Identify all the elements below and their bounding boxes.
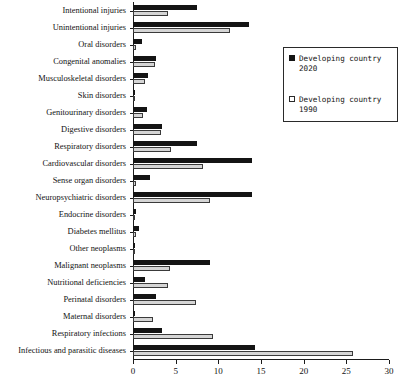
bar-2020 xyxy=(133,141,197,146)
bar-1990 xyxy=(133,215,135,220)
bar-2020 xyxy=(133,39,142,44)
bar-1990 xyxy=(133,249,135,254)
bar-2020 xyxy=(133,90,135,95)
x-axis-tick-label: 15 xyxy=(257,366,266,376)
bar-1990 xyxy=(133,45,136,50)
category-label: Intentional injuries xyxy=(0,2,130,19)
category-label: Digestive disorders xyxy=(0,121,130,138)
y-axis-tick xyxy=(130,317,133,318)
x-axis-tick-mark xyxy=(261,360,262,364)
category-label: Respiratory disorders xyxy=(0,138,130,155)
x-axis-ticks: 051015202530 xyxy=(133,360,389,382)
bar-2020 xyxy=(133,5,197,10)
category-label: Sense organ disorders xyxy=(0,172,130,189)
y-axis-tick xyxy=(130,181,133,182)
bar-2020 xyxy=(133,294,156,299)
y-axis-tick xyxy=(130,351,133,352)
y-axis-tick xyxy=(130,300,133,301)
bar-row xyxy=(133,223,388,240)
bar-1990 xyxy=(133,164,203,169)
y-axis-category-labels: Intentional injuriesUnintentional injuri… xyxy=(0,2,130,359)
x-axis-tick-label: 25 xyxy=(342,366,351,376)
y-axis-tick xyxy=(130,62,133,63)
y-axis-tick xyxy=(130,198,133,199)
bar-row xyxy=(133,138,388,155)
category-label: Other neoplasms xyxy=(0,240,130,257)
legend-entry-1990: Developing country 1990 xyxy=(289,95,393,114)
bar-2020 xyxy=(133,226,139,231)
category-label: Unintentional injuries xyxy=(0,19,130,36)
horizontal-bar-chart: Intentional injuriesUnintentional injuri… xyxy=(0,0,405,389)
x-axis-tick-mark xyxy=(218,360,219,364)
bar-2020 xyxy=(133,243,135,248)
x-axis-tick-mark xyxy=(133,360,134,364)
bar-row xyxy=(133,172,388,189)
category-label: Musculoskeletal disorders xyxy=(0,70,130,87)
x-axis-tick-mark xyxy=(389,360,390,364)
bar-row xyxy=(133,155,388,172)
x-axis-tick-mark xyxy=(176,360,177,364)
bar-2020 xyxy=(133,73,148,78)
bar-2020 xyxy=(133,175,150,180)
y-axis-tick xyxy=(130,283,133,284)
bar-2020 xyxy=(133,158,252,163)
category-label: Diabetes mellitus xyxy=(0,223,130,240)
bar-1990 xyxy=(133,96,135,101)
y-axis-tick xyxy=(130,79,133,80)
category-label: Perinatal disorders xyxy=(0,291,130,308)
y-axis-tick xyxy=(130,215,133,216)
bar-2020 xyxy=(133,107,147,112)
bar-1990 xyxy=(133,147,171,152)
bar-2020 xyxy=(133,311,135,316)
bar-row xyxy=(133,325,388,342)
category-label: Congenital anomalies xyxy=(0,53,130,70)
y-axis-tick xyxy=(130,11,133,12)
bar-1990 xyxy=(133,283,168,288)
y-axis-tick xyxy=(130,28,133,29)
x-axis-tick-label: 0 xyxy=(131,366,136,376)
y-axis-tick xyxy=(130,334,133,335)
bar-1990 xyxy=(133,232,136,237)
y-axis-tick xyxy=(130,266,133,267)
bar-2020 xyxy=(133,328,162,333)
bar-1990 xyxy=(133,300,196,305)
bar-2020 xyxy=(133,260,210,265)
x-axis-tick-label: 20 xyxy=(299,366,308,376)
x-axis-tick-label: 10 xyxy=(214,366,223,376)
category-label: Endocrine disorders xyxy=(0,206,130,223)
y-axis-tick xyxy=(130,130,133,131)
bar-row xyxy=(133,206,388,223)
bar-2020 xyxy=(133,22,249,27)
bar-1990 xyxy=(133,334,213,339)
x-axis-tick-label: 5 xyxy=(173,366,178,376)
bar-1990 xyxy=(133,266,170,271)
y-axis-tick xyxy=(130,147,133,148)
bar-row xyxy=(133,2,388,19)
chart-legend: Developing country 2020 Developing count… xyxy=(283,47,398,122)
bar-1990 xyxy=(133,28,230,33)
y-axis-tick xyxy=(130,164,133,165)
y-axis-tick xyxy=(130,249,133,250)
bar-1990 xyxy=(133,130,161,135)
category-label: Respiratory infections xyxy=(0,325,130,342)
bar-row xyxy=(133,19,388,36)
legend-label-1990: Developing country 1990 xyxy=(299,95,381,114)
y-axis-tick xyxy=(130,113,133,114)
bar-1990 xyxy=(133,11,168,16)
legend-swatch-2020-icon xyxy=(289,55,295,61)
bar-row xyxy=(133,189,388,206)
bar-1990 xyxy=(133,198,210,203)
bar-1990 xyxy=(133,351,353,356)
category-label: Neuropsychiatric disorders xyxy=(0,189,130,206)
category-label: Oral disorders xyxy=(0,36,130,53)
bar-1990 xyxy=(133,62,155,67)
legend-label-2020: Developing country 2020 xyxy=(299,54,381,73)
category-label: Infectious and parasitic diseases xyxy=(0,342,130,359)
y-axis-tick xyxy=(130,45,133,46)
bar-row xyxy=(133,121,388,138)
bar-row xyxy=(133,240,388,257)
bar-2020 xyxy=(133,277,145,282)
bar-row xyxy=(133,342,388,359)
y-axis-tick xyxy=(130,232,133,233)
y-axis-tick xyxy=(130,96,133,97)
